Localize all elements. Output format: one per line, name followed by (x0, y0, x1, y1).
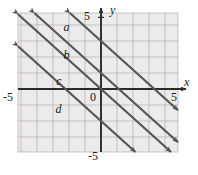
x-axis-min-tick-label: -5 (3, 91, 13, 103)
x-axis-label: x (184, 76, 189, 88)
coordinate-graph (0, 0, 198, 175)
x-axis-max-tick-label: 5 (171, 91, 177, 103)
y-axis-label: y (110, 4, 115, 16)
grid-background (18, 13, 178, 152)
y-axis-min-tick-label: -5 (88, 150, 98, 162)
figure-container: 5 y x 0 -5 5 -5 a b c d (0, 0, 198, 175)
origin-label: 0 (90, 91, 96, 103)
line-label-b: b (63, 49, 69, 61)
line-label-a: a (63, 21, 69, 33)
y-axis-max-tick-label: 5 (84, 10, 90, 22)
line-label-c: c (56, 75, 61, 87)
line-label-d: d (55, 103, 61, 115)
